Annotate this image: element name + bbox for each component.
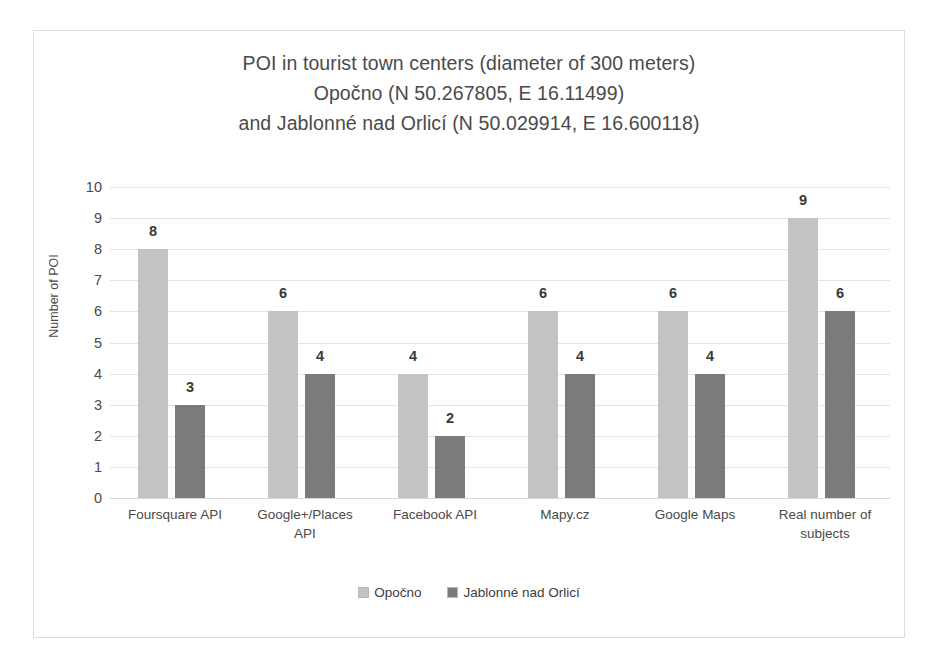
bar-value-label: 3 bbox=[186, 380, 194, 395]
legend-item-jablonne[interactable]: Jablonné nad Orlicí bbox=[447, 585, 579, 600]
y-tick-2: 2 bbox=[60, 429, 102, 444]
chart-title-line-1: POI in tourist town centers (diameter of… bbox=[34, 48, 904, 78]
bar-value-label: 6 bbox=[836, 286, 844, 301]
bar[interactable]: 6 bbox=[268, 311, 298, 498]
bar-value-label: 4 bbox=[409, 349, 417, 364]
x-axis-label: Mapy.cz bbox=[500, 505, 630, 543]
x-axis-label: Facebook API bbox=[370, 505, 500, 543]
bar-group: 64 bbox=[500, 187, 630, 498]
bar[interactable]: 6 bbox=[528, 311, 558, 498]
x-axis-label: Google Maps bbox=[630, 505, 760, 543]
chart-title-line-2: Opočno (N 50.267805, E 16.11499) bbox=[34, 78, 904, 108]
y-tick-8: 8 bbox=[60, 242, 102, 257]
bar-group: 83 bbox=[110, 187, 240, 498]
y-axis-title: Number of POI bbox=[47, 216, 61, 376]
x-axis-label: Real number ofsubjects bbox=[760, 505, 890, 543]
y-tick-10: 10 bbox=[60, 180, 102, 195]
gridline-0 bbox=[110, 498, 890, 499]
bar-group: 96 bbox=[760, 187, 890, 498]
bar-value-label: 6 bbox=[279, 286, 287, 301]
bar-value-label: 4 bbox=[576, 349, 584, 364]
bar-groups: 836442646496 bbox=[110, 187, 890, 498]
bar[interactable]: 2 bbox=[435, 436, 465, 498]
plot-area: 836442646496 bbox=[110, 187, 890, 498]
bar-group: 42 bbox=[370, 187, 500, 498]
chart-title: POI in tourist town centers (diameter of… bbox=[34, 48, 904, 138]
bar[interactable]: 3 bbox=[175, 405, 205, 498]
y-tick-9: 9 bbox=[60, 211, 102, 226]
x-axis-label: Foursquare API bbox=[110, 505, 240, 543]
bar-value-label: 9 bbox=[799, 193, 807, 208]
bar[interactable]: 6 bbox=[825, 311, 855, 498]
chart-title-line-3: and Jablonné nad Orlicí (N 50.029914, E … bbox=[34, 108, 904, 138]
y-tick-5: 5 bbox=[60, 335, 102, 350]
legend-label-opocno: Opočno bbox=[374, 585, 421, 600]
y-axis-tick-labels: 10 9 8 7 6 5 4 3 2 1 0 bbox=[60, 187, 102, 498]
legend-swatch-jablonne bbox=[447, 587, 458, 598]
y-tick-6: 6 bbox=[60, 304, 102, 319]
x-axis-tick-labels: Foursquare APIGoogle+/PlacesAPIFacebook … bbox=[110, 505, 890, 543]
y-tick-0: 0 bbox=[60, 491, 102, 506]
y-tick-4: 4 bbox=[60, 366, 102, 381]
bar-group: 64 bbox=[630, 187, 760, 498]
bar-value-label: 6 bbox=[669, 286, 677, 301]
y-tick-7: 7 bbox=[60, 273, 102, 288]
legend-item-opocno[interactable]: Opočno bbox=[358, 585, 421, 600]
bar[interactable]: 4 bbox=[695, 374, 725, 498]
bar-value-label: 4 bbox=[316, 349, 324, 364]
legend-label-jablonne: Jablonné nad Orlicí bbox=[463, 585, 579, 600]
y-tick-3: 3 bbox=[60, 397, 102, 412]
bar[interactable]: 8 bbox=[138, 249, 168, 498]
bar-group: 64 bbox=[240, 187, 370, 498]
bar[interactable]: 6 bbox=[658, 311, 688, 498]
bar[interactable]: 4 bbox=[305, 374, 335, 498]
legend-swatch-opocno bbox=[358, 587, 369, 598]
chart-legend: Opočno Jablonné nad Orlicí bbox=[34, 585, 904, 600]
bar[interactable]: 4 bbox=[565, 374, 595, 498]
y-tick-1: 1 bbox=[60, 460, 102, 475]
bar-value-label: 6 bbox=[539, 286, 547, 301]
x-axis-label: Google+/PlacesAPI bbox=[240, 505, 370, 543]
bar-value-label: 2 bbox=[446, 411, 454, 426]
bar-value-label: 8 bbox=[149, 224, 157, 239]
bar[interactable]: 4 bbox=[398, 374, 428, 498]
bar[interactable]: 9 bbox=[788, 218, 818, 498]
chart-container: POI in tourist town centers (diameter of… bbox=[33, 30, 905, 638]
bar-value-label: 4 bbox=[706, 349, 714, 364]
